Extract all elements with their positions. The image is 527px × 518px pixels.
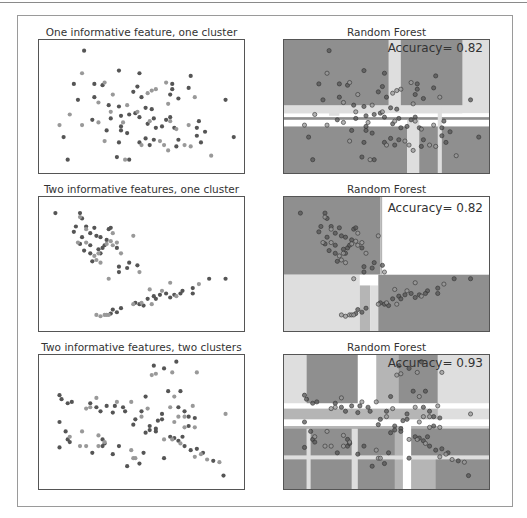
scatter-plot xyxy=(39,197,244,331)
subplot-title: Two informative features, one cluster xyxy=(38,183,245,195)
scatter-axes xyxy=(38,39,245,174)
decision-surface-plot xyxy=(284,40,489,173)
subplot-title: Random Forest xyxy=(283,183,490,195)
figure: One informative feature, one cluster Ran… xyxy=(17,15,513,507)
scatter-axes xyxy=(38,196,245,332)
scatter-plot xyxy=(39,355,244,489)
decision-surface-axes: Accuracy= 0.82 xyxy=(283,196,490,332)
accuracy-label: Accuracy= 0.93 xyxy=(388,356,483,370)
decision-surface-axes: Accuracy= 0.93 xyxy=(283,354,490,490)
subplot-title: One informative feature, one cluster xyxy=(38,26,245,38)
decision-surface-axes: Accuracy= 0.82 xyxy=(283,39,490,174)
subplot-title: Random Forest xyxy=(283,341,490,353)
scatter-plot xyxy=(39,40,244,173)
panel-scatter-3: Two informative features, two clusters xyxy=(38,338,245,490)
subplot-title: Two informative features, two clusters xyxy=(38,341,245,353)
panel-scatter-1: One informative feature, one cluster xyxy=(38,23,245,173)
panel-forest-1: Random Forest Accuracy= 0.82 xyxy=(283,23,490,173)
accuracy-label: Accuracy= 0.82 xyxy=(388,41,483,55)
decision-surface-plot xyxy=(284,355,489,489)
panel-scatter-2: Two informative features, one cluster xyxy=(38,180,245,332)
panel-forest-2: Random Forest Accuracy= 0.82 xyxy=(283,180,490,332)
scatter-axes xyxy=(38,354,245,490)
subplot-title: Random Forest xyxy=(283,26,490,38)
decision-surface-plot xyxy=(284,197,489,331)
accuracy-label: Accuracy= 0.82 xyxy=(388,201,483,215)
page-top-rule xyxy=(0,2,527,3)
panel-forest-3: Random Forest Accuracy= 0.93 xyxy=(283,338,490,490)
